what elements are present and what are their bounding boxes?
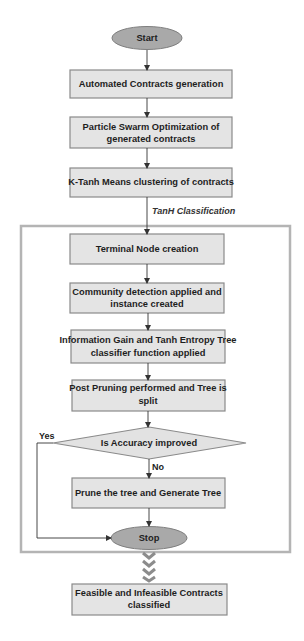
- start-label: Start: [136, 33, 157, 43]
- chevron-down-icon: [143, 553, 155, 558]
- start-terminator: Start: [112, 27, 182, 50]
- process-k-tanh-clustering: K-Tanh Means clustering of contracts: [68, 168, 234, 197]
- decision-label: Is Accuracy improved: [101, 438, 198, 448]
- process-label: Prune the tree and Generate Tree: [75, 488, 221, 498]
- process-label: Automated Contracts generation: [79, 79, 224, 89]
- result-label-line2: classified: [128, 600, 171, 610]
- no-label: No: [152, 462, 164, 472]
- result-label-line1: Feasible and Infeasible Contracts: [75, 588, 223, 598]
- chevron-down-icon: [143, 569, 155, 574]
- process-label-line2: instance created: [110, 299, 184, 309]
- chevron-down-icons: [143, 553, 155, 581]
- process-information-gain: Information Gain and Tanh Entropy Tree c…: [60, 330, 237, 363]
- result-feasible-infeasible: Feasible and Infeasible Contracts classi…: [72, 584, 227, 615]
- process-label-line1: Information Gain and Tanh Entropy Tree: [60, 335, 237, 345]
- process-label-line2: split: [138, 396, 157, 406]
- process-automated-contracts: Automated Contracts generation: [70, 70, 232, 98]
- stop-terminator: Stop: [111, 527, 187, 550]
- process-label-line1: Particle Swarm Optimization of: [83, 122, 221, 132]
- process-prune-tree: Prune the tree and Generate Tree: [72, 478, 225, 508]
- process-label-line1: Community detection applied and: [72, 287, 222, 297]
- chevron-down-icon: [143, 577, 155, 581]
- process-post-pruning: Post Pruning performed and Tree is split: [69, 380, 227, 411]
- process-label-line2: generated contracts: [107, 134, 196, 144]
- yes-label: Yes: [39, 431, 55, 441]
- process-label-line1: Post Pruning performed and Tree is: [69, 383, 227, 393]
- process-particle-swarm: Particle Swarm Optimization of generated…: [70, 117, 232, 148]
- process-label-line2: classifier function applied: [91, 348, 206, 358]
- process-terminal-node: Terminal Node creation: [70, 234, 224, 264]
- chevron-down-icon: [143, 561, 155, 566]
- flowchart: Start Automated Contracts generation Par…: [0, 0, 304, 641]
- process-community-detection: Community detection applied and instance…: [70, 283, 224, 313]
- section-label: TanH Classification: [152, 206, 236, 216]
- process-label: K-Tanh Means clustering of contracts: [68, 177, 234, 187]
- stop-label: Stop: [139, 533, 160, 543]
- process-label: Terminal Node creation: [96, 244, 199, 254]
- decision-accuracy-improved: Is Accuracy improved: [53, 427, 246, 459]
